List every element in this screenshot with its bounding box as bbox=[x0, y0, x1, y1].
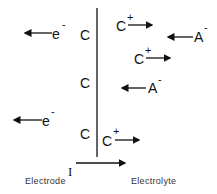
diagram-lines bbox=[0, 0, 217, 194]
electrode-charge-3: C bbox=[80, 127, 90, 141]
anion-2: A bbox=[148, 81, 157, 95]
electrode-label: Electrode bbox=[25, 176, 66, 186]
cation-2-label: C bbox=[134, 52, 144, 66]
anion-1-charge: - bbox=[204, 22, 208, 33]
electron-2-charge: - bbox=[51, 106, 55, 117]
cation-1-charge: + bbox=[127, 12, 133, 23]
electron-1-charge: - bbox=[62, 19, 66, 30]
anion-1: A bbox=[194, 30, 203, 44]
electron-2: e bbox=[42, 114, 50, 128]
electron-1: e bbox=[52, 27, 60, 41]
cation-3: C bbox=[102, 134, 112, 148]
current-label: I bbox=[68, 164, 72, 180]
cation-1: C bbox=[116, 19, 126, 33]
electrode-charge-2: C bbox=[80, 76, 90, 90]
electrolyte-label: Electrolyte bbox=[131, 176, 176, 186]
electrode-charge-1: C bbox=[80, 28, 90, 42]
cation-2-charge: + bbox=[145, 45, 151, 56]
cation-3-charge: + bbox=[113, 126, 119, 137]
anion-2-charge: - bbox=[158, 74, 162, 85]
